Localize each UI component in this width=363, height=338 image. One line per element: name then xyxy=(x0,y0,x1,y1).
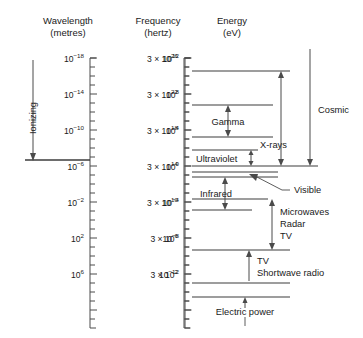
band-x-rays: X-rays xyxy=(260,71,287,166)
energy-tick-3: 100 xyxy=(166,160,180,172)
column-title-energy: Energy xyxy=(217,15,247,26)
shortwave-radio-label: Shortwave radio xyxy=(257,268,324,278)
tv-lower-label: TV xyxy=(257,256,270,266)
xrays-arrowhead-up xyxy=(278,71,284,78)
visible-leader-diagonal xyxy=(255,176,282,190)
ionizing-annotation: Ionizing xyxy=(25,60,90,161)
ionizing-label: Ionizing xyxy=(28,102,38,134)
ultraviolet-arrowhead-down xyxy=(249,161,254,166)
gamma-arrowhead-up xyxy=(225,105,231,112)
wavelength-tick-2: 10−10 xyxy=(64,124,85,136)
visible-label: Visible xyxy=(294,185,321,195)
wavelength-tick-5: 102 xyxy=(71,232,85,244)
column-unit-frequency: (hertz) xyxy=(144,27,171,38)
energy-tick-0: 1012 xyxy=(163,52,180,64)
band-cosmic: Cosmic xyxy=(307,49,349,166)
band-boundary-lines xyxy=(192,71,318,297)
electromagnetic-spectrum-figure: Wavelength (metres) Frequency (hertz) En… xyxy=(0,0,363,338)
infrared-arrowhead-up xyxy=(222,177,228,184)
gamma-arrowhead-down xyxy=(225,130,231,137)
microwaves-label: Microwaves xyxy=(280,207,329,217)
band-electric-power: Electric power xyxy=(216,297,274,326)
wavelength-tick-3: 10−6 xyxy=(67,160,84,172)
infrared-arrowhead-down xyxy=(222,203,228,210)
energy-axis-ticks xyxy=(185,58,192,319)
cosmic-arrowhead-down xyxy=(307,159,313,166)
cosmic-label: Cosmic xyxy=(318,105,349,115)
microwaves-arrowhead-up xyxy=(269,199,275,206)
electric-power-arrowhead-up xyxy=(243,297,248,303)
band-infrared: Infrared xyxy=(200,177,232,210)
gamma-label: Gamma xyxy=(211,117,245,127)
wavelength-tick-1: 10−14 xyxy=(64,88,85,100)
column-unit-wavelength: (metres) xyxy=(50,27,85,38)
xrays-arrowhead-down xyxy=(278,159,284,166)
shortwave-arrowhead-up xyxy=(246,250,252,257)
energy-tick-2: 104 xyxy=(166,124,180,136)
column-unit-energy: (eV) xyxy=(223,27,241,38)
wavelength-tick-6: 106 xyxy=(71,268,85,280)
microwaves-arrowhead-down xyxy=(269,243,275,250)
axis-wavelength: 10−18 10−14 10−10 10−6 10−2 102 106 xyxy=(64,52,97,328)
energy-tick-5: 10−8 xyxy=(162,232,179,244)
wavelength-tick-0: 10−18 xyxy=(64,52,85,64)
wavelength-tick-4: 10−2 xyxy=(67,196,84,208)
band-ultraviolet: Ultraviolet xyxy=(196,150,254,166)
ultraviolet-arrowhead-up xyxy=(249,150,254,155)
radar-label: Radar xyxy=(280,219,305,229)
energy-tick-4: 10−4 xyxy=(162,196,179,208)
wavelength-axis-labels: 10−18 10−14 10−10 10−6 10−2 102 106 xyxy=(64,52,85,280)
infrared-label: Infrared xyxy=(200,189,232,199)
column-title-wavelength: Wavelength xyxy=(43,15,93,26)
energy-tick-1: 108 xyxy=(166,88,180,100)
column-title-frequency: Frequency xyxy=(136,15,181,26)
wavelength-axis-ticks xyxy=(90,58,97,319)
ultraviolet-label: Ultraviolet xyxy=(196,154,238,164)
band-tv-shortwave: TV Shortwave radio xyxy=(246,250,324,281)
tv-upper-label: TV xyxy=(280,231,293,241)
band-gamma: Gamma xyxy=(211,105,245,137)
column-headers: Wavelength (metres) Frequency (hertz) En… xyxy=(43,15,247,38)
xrays-label: X-rays xyxy=(260,140,287,150)
band-microwaves-radar-tv: Microwaves Radar TV xyxy=(269,199,329,250)
electric-power-label: Electric power xyxy=(216,307,274,317)
